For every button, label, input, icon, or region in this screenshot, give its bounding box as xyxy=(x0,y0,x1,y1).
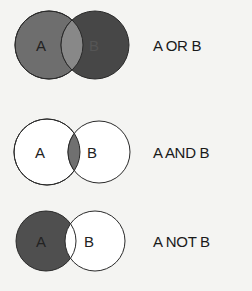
label-a: A xyxy=(35,144,45,161)
label-b: B xyxy=(87,144,97,161)
venn-a-or-b: A B xyxy=(15,11,129,79)
set-b-circle xyxy=(65,211,125,271)
caption-a-and-b: A AND B xyxy=(153,144,209,161)
venn-a-not-b: A B xyxy=(16,211,125,271)
label-a: A xyxy=(36,233,46,250)
caption-a-not-b: A NOT B xyxy=(153,233,210,250)
label-b: B xyxy=(89,37,99,54)
caption-a-or-b: A OR B xyxy=(153,37,201,54)
venn-a-and-b: A B xyxy=(14,119,130,185)
label-b: B xyxy=(84,233,94,250)
label-a: A xyxy=(36,37,46,54)
venn-diagrams: A B A B A B xyxy=(0,0,252,291)
